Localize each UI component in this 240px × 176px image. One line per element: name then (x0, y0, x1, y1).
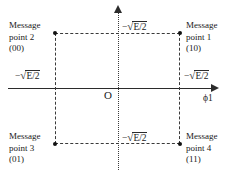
constellation-diagram: Message point 2 (00) Message point 1 (10… (0, 0, 240, 176)
message-point-label-4-line2: point 4 (186, 143, 218, 155)
constellation-square (55, 33, 180, 144)
coordinate-label-left: −√E/2 (15, 70, 40, 82)
message-point-label-3-line1: Message (9, 131, 41, 143)
message-point-marker-3 (53, 142, 57, 146)
message-point-marker-1 (178, 31, 182, 35)
message-point-label-2-line1: Message (9, 20, 41, 32)
message-point-label-4: Message point 4 (11) (186, 131, 218, 166)
message-point-label-3: Message point 3 (01) (9, 131, 41, 166)
message-point-label-1-line2: point 1 (186, 32, 218, 44)
coordinate-label-bottom: −√E/2 (122, 132, 147, 144)
coordinate-label-bottom-radicand: E/2 (132, 132, 146, 143)
message-point-label-1-line1: Message (186, 20, 218, 32)
coordinate-label-top-radicand: E/2 (132, 21, 146, 32)
origin-label: O (104, 89, 112, 101)
message-point-label-2: Message point 2 (00) (9, 20, 41, 55)
message-point-label-3-line2: point 3 (9, 143, 41, 155)
message-point-label-3-bits: (01) (9, 154, 41, 166)
message-point-marker-4 (178, 142, 182, 146)
x-axis-label: ϕ1 (203, 93, 213, 104)
message-point-label-2-line2: point 2 (9, 32, 41, 44)
message-point-label-4-bits: (11) (186, 154, 218, 166)
message-point-label-4-line1: Message (186, 131, 218, 143)
message-point-label-1: Message point 1 (10) (186, 20, 218, 55)
message-point-label-1-bits: (10) (186, 43, 218, 55)
coordinate-label-right: −√E/2 (184, 70, 209, 82)
coordinate-label-right-radicand: E/2 (194, 70, 208, 81)
message-point-marker-2 (53, 31, 57, 35)
coordinate-label-top: −√E/2 (122, 21, 147, 33)
x-axis-arrowhead (211, 84, 219, 92)
y-axis-arrowhead (114, 5, 122, 13)
coordinate-label-left-radicand: E/2 (25, 70, 39, 81)
message-point-label-2-bits: (00) (9, 43, 41, 55)
